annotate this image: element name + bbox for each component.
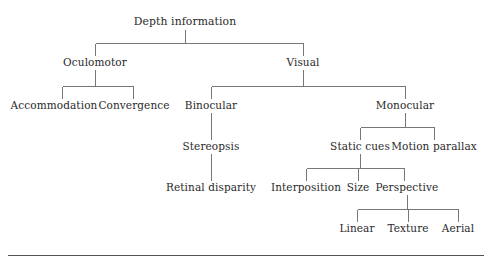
node-static-cues: Static cues [330,141,390,152]
node-motion-parallax: Motion parallax [391,141,477,152]
node-stereopsis: Stereopsis [182,141,239,152]
node-interposition: Interposition [271,182,341,193]
node-texture: Texture [387,223,428,234]
diagram-page: Depth information Oculomotor Visual Acco… [0,0,492,268]
node-accommodation: Accommodation [11,100,98,111]
node-monocular: Monocular [376,100,434,111]
node-depth-information: Depth information [134,17,236,28]
node-retinal-disparity: Retinal disparity [166,182,256,193]
node-aerial: Aerial [442,223,474,234]
node-oculomotor: Oculomotor [63,57,127,68]
node-perspective: Perspective [376,182,439,193]
node-linear: Linear [339,223,374,234]
node-visual: Visual [286,57,319,68]
node-binocular: Binocular [185,100,237,111]
node-convergence: Convergence [98,100,169,111]
node-size: Size [347,182,370,193]
